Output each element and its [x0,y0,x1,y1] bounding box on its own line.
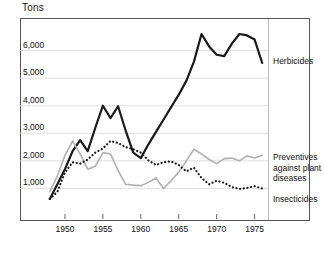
y-axis-title: Tons [22,2,44,13]
legend-divider [268,19,269,220]
y-tick-label: 1,000 [23,178,44,187]
x-tick-label: 1965 [169,224,188,234]
series-line-1 [50,141,262,192]
y-tick-label: 3,000 [23,123,44,132]
x-tick-label: 1960 [131,224,150,234]
chart-figure: Tons 6,0005,0004,0003,0002,0001,000 1950… [0,0,324,258]
series-canvas [20,18,268,221]
series-label-0: Herbicides [273,56,313,67]
series-label-1: Preventives against plant diseases [273,152,321,184]
x-tick-label: 1970 [207,224,226,234]
x-tick-label: 1950 [55,224,74,234]
x-tick-label: 1955 [93,224,112,234]
series-line-2 [50,141,262,199]
series-label-2: Insecticides [273,194,317,205]
x-tick-label: 1975 [245,224,264,234]
y-tick-label: 6,000 [23,41,44,50]
plot-area [20,18,268,221]
series-line-0 [50,34,262,199]
y-tick-label: 4,000 [23,96,44,105]
y-tick-label: 5,000 [23,68,44,77]
y-tick-label: 2,000 [23,151,44,160]
